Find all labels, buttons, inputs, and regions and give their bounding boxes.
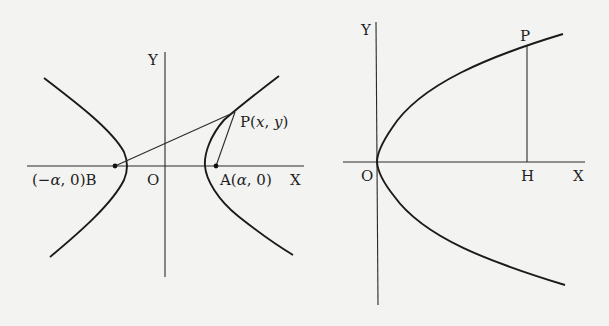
point-b-label: (−α, 0)B bbox=[32, 171, 97, 189]
diagram-canvas: Y O (−α, 0)B A(α, 0) X P(x, y) Y O P H X bbox=[0, 0, 609, 326]
origin-label: O bbox=[361, 167, 373, 185]
point-a-label: A(α, 0) bbox=[219, 171, 272, 189]
point-p-label: P(x, y) bbox=[240, 113, 288, 131]
point-p-label: P bbox=[520, 27, 530, 45]
parabola-curve bbox=[377, 34, 565, 285]
x-axis-label: X bbox=[290, 171, 301, 189]
point-b bbox=[113, 164, 118, 169]
segment-ap bbox=[216, 112, 235, 166]
parabola-figure: Y O P H X bbox=[343, 21, 585, 305]
hyperbola-figure: Y O (−α, 0)B A(α, 0) X P(x, y) bbox=[27, 51, 304, 277]
point-a bbox=[214, 164, 219, 169]
segment-bp bbox=[115, 112, 235, 166]
x-axis-label: X bbox=[573, 167, 584, 185]
y-axis-label: Y bbox=[147, 51, 159, 69]
origin-label: O bbox=[147, 171, 159, 189]
point-h-label: H bbox=[521, 167, 534, 185]
y-axis-label: Y bbox=[360, 21, 372, 39]
